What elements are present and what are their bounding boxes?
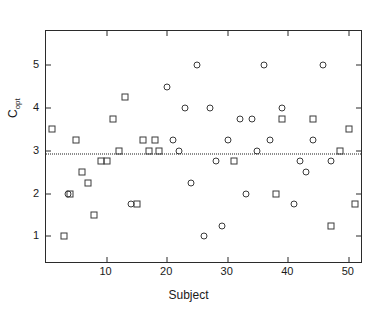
data-point-circles-25 [327,158,334,165]
y-tick-5 [46,65,51,66]
data-point-squares-5 [85,179,92,186]
y-tick-label-2: 2 [25,187,39,199]
plot-area [46,31,361,262]
data-point-squares-24 [351,201,358,208]
figure-scatter-plot: Copt Subject 1020304050 12345 [0,0,377,315]
data-point-circles-5 [182,105,189,112]
data-point-squares-19 [279,115,286,122]
data-point-squares-16 [155,147,162,154]
x-tick-label-10: 10 [99,265,111,277]
data-point-circles-18 [267,137,274,144]
x-tick-20 [167,257,168,262]
data-point-squares-0 [49,126,56,133]
y-axis-title: Copt [6,98,22,118]
y-tick-right-1 [356,236,361,237]
data-point-circles-8 [200,233,207,240]
data-point-circles-14 [242,190,249,197]
data-point-squares-18 [273,190,280,197]
data-point-circles-12 [224,137,231,144]
data-point-squares-11 [121,94,128,101]
data-point-circles-15 [248,115,255,122]
y-tick-label-5: 5 [25,58,39,70]
plot-box [45,30,362,263]
data-point-circles-23 [309,137,316,144]
data-point-squares-9 [109,115,116,122]
x-tick-50 [348,257,349,262]
x-tick-40 [288,257,289,262]
data-point-squares-17 [230,158,237,165]
data-point-circles-9 [206,105,213,112]
data-point-squares-23 [345,126,352,133]
y-tick-3 [46,150,51,151]
data-point-circles-0 [64,190,71,197]
x-tick-top-10 [106,31,107,36]
data-point-circles-2 [164,83,171,90]
y-tick-right-5 [356,65,361,66]
x-tick-top-40 [288,31,289,36]
data-point-squares-14 [145,147,152,154]
data-point-circles-3 [170,137,177,144]
x-tick-label-20: 20 [160,265,172,277]
mean-reference-line [46,153,361,154]
x-tick-top-20 [167,31,168,36]
data-point-squares-8 [103,158,110,165]
x-axis-title: Subject [0,288,377,302]
y-tick-right-4 [356,108,361,109]
data-point-circles-19 [279,105,286,112]
data-point-circles-16 [253,147,260,154]
x-tick-label-40: 40 [281,265,293,277]
data-point-circles-22 [303,169,310,176]
data-point-circles-6 [188,179,195,186]
y-axis-title-base: C [6,109,20,118]
data-point-squares-22 [336,147,343,154]
x-tick-label-50: 50 [342,265,354,277]
y-tick-label-1: 1 [25,229,39,241]
data-point-circles-1 [127,201,134,208]
data-point-squares-3 [73,137,80,144]
data-point-circles-13 [236,115,243,122]
data-point-circles-4 [176,147,183,154]
data-point-squares-21 [327,222,334,229]
x-tick-10 [106,257,107,262]
y-tick-2 [46,193,51,194]
x-tick-30 [227,257,228,262]
data-point-squares-12 [133,201,140,208]
y-axis-title-subscript: opt [13,98,22,109]
data-point-circles-17 [261,62,268,69]
data-point-squares-13 [139,137,146,144]
x-tick-label-30: 30 [221,265,233,277]
data-point-circles-7 [194,62,201,69]
data-point-squares-1 [61,233,68,240]
data-point-circles-10 [212,158,219,165]
data-point-squares-6 [91,211,98,218]
data-point-circles-21 [297,158,304,165]
y-tick-4 [46,108,51,109]
y-tick-1 [46,236,51,237]
x-tick-top-30 [227,31,228,36]
y-tick-right-2 [356,193,361,194]
y-tick-label-4: 4 [25,101,39,113]
data-point-circles-20 [291,201,298,208]
data-point-squares-20 [309,115,316,122]
data-point-squares-15 [152,137,159,144]
y-tick-label-3: 3 [25,144,39,156]
x-tick-top-50 [348,31,349,36]
y-tick-right-3 [356,150,361,151]
data-point-circles-11 [218,222,225,229]
data-point-squares-4 [79,169,86,176]
data-point-circles-24 [320,62,327,69]
data-point-squares-10 [115,147,122,154]
